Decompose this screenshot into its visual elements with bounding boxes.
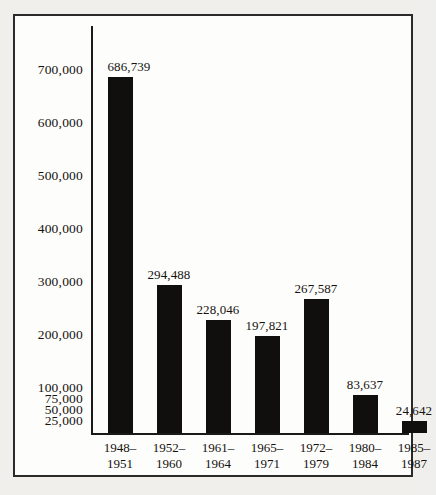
category-label-line: 1961– — [190, 440, 246, 456]
plot-area: 700,000600,000500,000400,000300,000200,0… — [15, 16, 415, 479]
category-label-line: 1964 — [190, 456, 246, 472]
category-label-line: 1979 — [288, 456, 344, 472]
bar-group[interactable]: 267,587 — [304, 299, 329, 433]
bar-group[interactable]: 294,488 — [157, 285, 182, 433]
bar-group[interactable]: 83,637 — [353, 395, 378, 433]
category-label-line: 1948– — [92, 440, 148, 456]
category-label-line: 1980– — [337, 440, 393, 456]
bar-rect[interactable] — [255, 336, 280, 433]
x-axis-category-label: 1965–1971 — [239, 440, 295, 473]
x-axis-category-label: 1952–1960 — [141, 440, 197, 473]
bar-rect[interactable] — [402, 421, 427, 433]
x-axis-category-label: 1948–1951 — [92, 440, 148, 473]
bar-value-label: 686,739 — [108, 60, 151, 73]
category-label-line: 1952– — [141, 440, 197, 456]
bar-rect[interactable] — [206, 320, 231, 433]
bar-group[interactable]: 686,739 — [108, 77, 133, 433]
bar-value-label: 24,642 — [396, 404, 432, 417]
bar-value-label: 83,637 — [347, 378, 383, 391]
bar-rect[interactable] — [304, 299, 329, 433]
category-label-line: 1984 — [337, 456, 393, 472]
bar-rect[interactable] — [353, 395, 378, 433]
category-label-line: 1960 — [141, 456, 197, 472]
chart-frame: 700,000600,000500,000400,000300,000200,0… — [13, 14, 413, 477]
bar-group[interactable]: 228,046 — [206, 320, 231, 433]
bars-layer: 686,739294,488228,046197,821267,58783,63… — [15, 16, 415, 479]
bar-value-label: 267,587 — [295, 282, 338, 295]
x-axis-category-label: 1961–1964 — [190, 440, 246, 473]
bar-value-label: 294,488 — [148, 268, 191, 281]
category-label-line: 1951 — [92, 456, 148, 472]
x-axis-category-label: 1985–1987 — [386, 440, 436, 473]
category-label-line: 1987 — [386, 456, 436, 472]
bar-value-label: 197,821 — [246, 319, 289, 332]
x-axis-category-label: 1972–1979 — [288, 440, 344, 473]
category-label-line: 1985– — [386, 440, 436, 456]
bar-group[interactable]: 197,821 — [255, 336, 280, 433]
bar-rect[interactable] — [157, 285, 182, 433]
x-axis-category-label: 1980–1984 — [337, 440, 393, 473]
bar-group[interactable]: 24,642 — [402, 421, 427, 433]
category-label-line: 1965– — [239, 440, 295, 456]
category-label-line: 1972– — [288, 440, 344, 456]
bar-rect[interactable] — [108, 77, 133, 433]
category-label-line: 1971 — [239, 456, 295, 472]
bar-value-label: 228,046 — [197, 303, 240, 316]
